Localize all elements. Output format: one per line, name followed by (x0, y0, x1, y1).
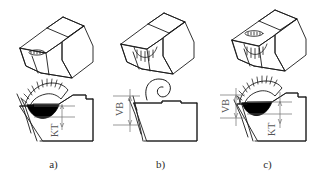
kt-label-c: KT (266, 123, 277, 136)
panel-crater-wear: KT a) (0, 0, 107, 187)
crater-wear-marks-iso-c (245, 31, 263, 37)
tool-wear-figure: KT a) (0, 0, 322, 187)
panel-c-drawing: VB KT (214, 0, 321, 158)
panel-flank-wear: VB b) (107, 0, 214, 187)
vb-label-c: VB (220, 99, 231, 113)
vb-label-b: VB (114, 102, 125, 116)
tool-isometric-combined-wear (232, 10, 306, 71)
tool-section-flank-wear (129, 79, 197, 141)
panel-combined-wear: VB KT c) (214, 0, 321, 187)
panel-a-drawing: KT (0, 0, 107, 158)
kt-label-a: KT (49, 124, 60, 137)
tool-isometric-flank-wear (121, 13, 194, 74)
panel-b-drawing: VB (107, 0, 214, 158)
caption-c: c) (214, 158, 321, 170)
crater-wear-marks-iso (29, 50, 45, 55)
flank-wear-marks-iso (134, 47, 157, 62)
caption-b: b) (107, 158, 214, 170)
flank-wear-marks-iso-c (244, 44, 267, 59)
caption-a: a) (0, 158, 107, 170)
tool-isometric-crater-wear (20, 17, 93, 78)
